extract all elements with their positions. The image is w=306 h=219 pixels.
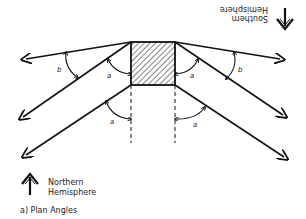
- right-upper-a-arc: [175, 59, 198, 74]
- right-lower-a-label: a: [193, 121, 197, 129]
- right-top-ray: [175, 42, 280, 59]
- south-label-line1: Southern: [232, 14, 268, 23]
- left-lower-a-label: a: [110, 118, 114, 126]
- left-b-label: b: [57, 66, 62, 74]
- building-square: [131, 42, 175, 85]
- north-arrow-icon: [22, 174, 38, 195]
- right-b-arc: [226, 52, 235, 79]
- right-upper-a-label: a: [190, 72, 194, 80]
- north-label-line1: Northern: [48, 178, 84, 187]
- south-label-line2: Hemisphere: [220, 5, 268, 14]
- left-bottom-ray: [26, 85, 131, 155]
- left-lower-a-arc: [106, 101, 131, 119]
- left-top-ray: [26, 42, 131, 59]
- left-upper-a-arc: [108, 59, 131, 74]
- south-arrow-icon: [277, 8, 293, 29]
- north-label-line2: Hemisphere: [48, 188, 96, 197]
- left-upper-a-label: a: [107, 72, 111, 80]
- right-lower-a-arc: [175, 107, 205, 119]
- right-bottom-ray: [175, 85, 284, 157]
- right-b-label: b: [238, 66, 243, 74]
- diagram-caption: a) Plan Angles: [20, 206, 77, 215]
- left-b-arc: [66, 52, 78, 78]
- left-middle-ray: [23, 42, 131, 117]
- plan-angles-diagram: b b a a a a Southern Hemisphere Northern…: [0, 0, 306, 219]
